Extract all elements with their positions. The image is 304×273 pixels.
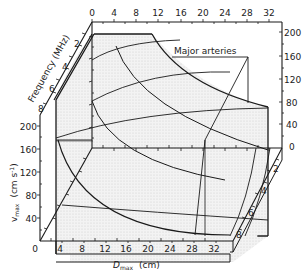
tick-d-top-28: 28 xyxy=(241,8,253,18)
tick-d-bottom-16: 16 xyxy=(120,244,132,254)
dmax-axis-top: 0 4 8 12 16 20 24 28 32 xyxy=(89,8,282,24)
tick-f-left-6: 6 xyxy=(49,84,55,94)
tick-v-left-40: 40 xyxy=(26,214,38,224)
tick-v-right-200: 200 xyxy=(284,28,301,38)
tick-v-left-80: 80 xyxy=(26,191,38,201)
tick-f-left-4: 4 xyxy=(62,62,68,72)
tick-d-bottom-8: 8 xyxy=(79,244,85,254)
tick-d-bottom-28: 28 xyxy=(186,244,198,254)
tick-f-left-8: 8 xyxy=(38,104,44,114)
tick-v-left-0: 0 xyxy=(32,244,38,254)
tick-d-top-20: 20 xyxy=(197,8,209,18)
3d-diagram-figure: 0 4 8 12 16 20 24 28 32 200 160 120 80 4… xyxy=(0,0,304,273)
tick-v-left-200: 200 xyxy=(20,122,37,132)
vmax-axis-right: 200 160 120 80 40 0 xyxy=(279,22,301,152)
tick-v-right-40: 40 xyxy=(286,120,298,130)
tick-d-top-12: 12 xyxy=(152,8,163,18)
tick-d-top-16: 16 xyxy=(175,8,187,18)
tick-v-right-120: 120 xyxy=(284,75,301,85)
tick-d-top-32: 32 xyxy=(263,8,274,18)
tick-v-right-160: 160 xyxy=(284,52,301,62)
major-arteries-label: Major arteries xyxy=(174,46,237,56)
tick-v-right-80: 80 xyxy=(286,98,298,108)
tick-d-bottom-4: 4 xyxy=(57,244,63,254)
tick-d-bottom-32: 32 xyxy=(208,244,219,254)
tick-f-right-8: 8 xyxy=(236,230,242,240)
tick-v-left-120: 120 xyxy=(20,168,37,178)
tick-d-top-0: 0 xyxy=(89,8,95,18)
tick-v-right-0: 0 xyxy=(289,142,295,152)
tick-d-top-8: 8 xyxy=(133,8,139,18)
tick-d-top-4: 4 xyxy=(111,8,117,18)
tick-f-left-2: 2 xyxy=(74,39,80,49)
tick-d-bottom-20: 20 xyxy=(142,244,154,254)
vmax-axis-left: 200 160 120 80 40 vmax(cm s-1) xyxy=(8,115,42,241)
vmax-axis-title: vmax(cm s-1) xyxy=(8,163,20,222)
tick-d-bottom-12: 12 xyxy=(99,244,110,254)
tick-d-top-24: 24 xyxy=(219,8,231,18)
tick-d-bottom-24: 24 xyxy=(164,244,176,254)
tick-v-left-160: 160 xyxy=(20,145,37,155)
